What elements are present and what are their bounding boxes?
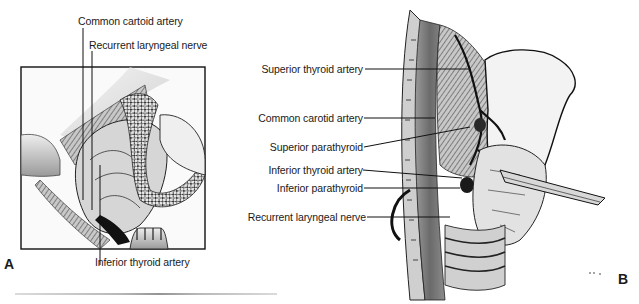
panel-letter-a: A <box>4 256 14 272</box>
bottom-divider <box>15 293 277 295</box>
label-recurrent-laryngeal-nerve-b: Recurrent laryngeal nerve <box>248 211 366 223</box>
label-recurrent-laryngeal-nerve-a: Recurrent laryngeal nerve <box>89 39 207 51</box>
label-inferior-parathyroid: Inferior parathyroid <box>277 182 363 194</box>
panel-a-artwork <box>21 28 205 265</box>
panel-b-artwork <box>363 10 605 300</box>
label-common-cartoid-artery: Common cartoid artery <box>78 15 183 27</box>
panel-letter-b: B <box>618 271 628 287</box>
label-common-carotid-artery: Common carotid artery <box>258 112 363 124</box>
label-superior-thyroid-artery: Superior thyroid artery <box>261 63 363 75</box>
label-inferior-thyroid-artery-a: Inferior thyroid artery <box>95 256 190 268</box>
label-superior-parathyroid: Superior parathyroid <box>270 141 363 153</box>
label-inferior-thyroid-artery-b: Inferior thyroid artery <box>268 164 363 176</box>
